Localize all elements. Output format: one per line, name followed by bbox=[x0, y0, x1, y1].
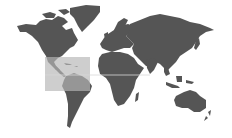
world-map bbox=[0, 0, 232, 138]
madagascar bbox=[135, 92, 139, 102]
australia bbox=[174, 90, 206, 112]
greenland bbox=[70, 5, 100, 32]
india bbox=[146, 58, 158, 74]
new-zealand bbox=[204, 110, 211, 121]
arctic-islands bbox=[42, 9, 70, 18]
asia bbox=[126, 14, 214, 70]
world-map-svg bbox=[0, 0, 232, 138]
highlight-overlay bbox=[45, 57, 90, 91]
indonesia bbox=[166, 76, 194, 88]
